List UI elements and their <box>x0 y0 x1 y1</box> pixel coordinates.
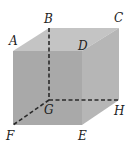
vertex-label-C: C <box>114 11 123 25</box>
vertex-label-D: D <box>77 39 88 53</box>
vertex-label-G: G <box>44 103 54 117</box>
vertex-label-H: H <box>113 104 125 118</box>
vertex-label-A: A <box>8 34 18 48</box>
cube-diagram: A B C D G H F E <box>0 0 133 147</box>
vertex-label-F: F <box>5 129 15 143</box>
vertex-label-E: E <box>77 129 87 143</box>
vertex-label-B: B <box>43 12 53 26</box>
